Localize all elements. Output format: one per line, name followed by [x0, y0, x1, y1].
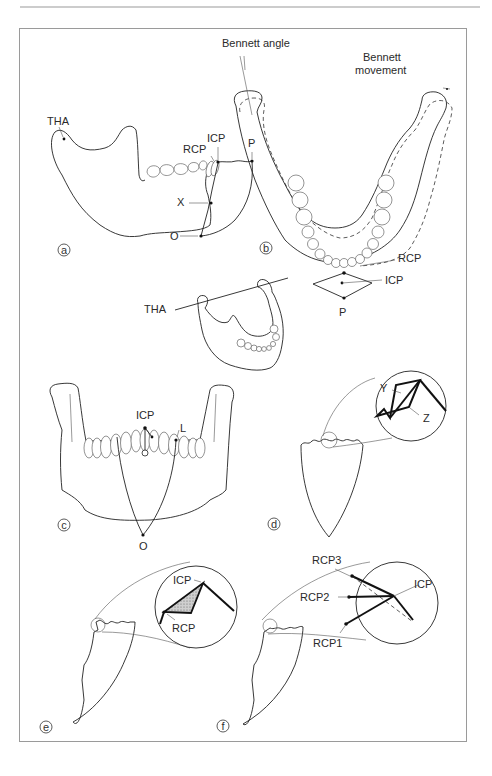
panel-d-envelope: [301, 371, 446, 537]
label-f-rcp2: RCP2: [300, 591, 329, 603]
panel-e-envelope: [73, 562, 237, 723]
label-d-z: Z: [423, 412, 430, 424]
label-p: P: [248, 137, 255, 149]
label-d-y: Y: [380, 382, 388, 394]
label-tha: THA: [47, 115, 70, 127]
panel-label-a: a: [58, 244, 70, 256]
label-e-rcp: RCP: [172, 622, 195, 634]
label-bennett-movement-2: movement: [355, 64, 406, 76]
oblique-mandible-tha: [175, 278, 288, 370]
panel-label-b: b: [260, 242, 272, 254]
panel-label-d: d: [268, 518, 280, 530]
panel-label-e: e: [40, 721, 52, 733]
svg-text:e: e: [43, 721, 49, 733]
label-b-rcp: RCP: [398, 252, 421, 264]
svg-text:b: b: [263, 242, 269, 254]
label-c-o: O: [139, 540, 148, 552]
panel-label-f: f: [217, 720, 229, 732]
svg-text:a: a: [61, 244, 68, 256]
label-b-tha: THA: [144, 303, 167, 315]
label-f-icp: ICP: [414, 578, 432, 590]
panel-label-c: c: [58, 519, 70, 531]
label-bennett-movement-1: Bennett: [363, 51, 401, 63]
label-x: X: [177, 196, 185, 208]
panel-c-frontal-mandible: [50, 383, 234, 536]
label-b-icp: ICP: [385, 274, 403, 286]
label-b-p: P: [339, 306, 346, 318]
label-f-rcp3: RCP3: [312, 554, 341, 566]
label-c-icp: ICP: [136, 409, 154, 421]
label-c-l: L: [180, 422, 186, 434]
label-bennett-angle: Bennett angle: [222, 37, 290, 49]
svg-text:d: d: [271, 518, 277, 530]
svg-text:c: c: [61, 519, 67, 531]
label-f-rcp1: RCP1: [313, 637, 342, 649]
label-icp: ICP: [207, 132, 225, 144]
svg-text:f: f: [221, 720, 225, 732]
label-e-icp: ICP: [173, 574, 191, 586]
label-rcp: RCP: [183, 143, 206, 155]
label-o: O: [170, 230, 179, 242]
figure-canvas: THA RCP ICP P X O a: [0, 0, 492, 776]
